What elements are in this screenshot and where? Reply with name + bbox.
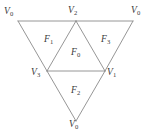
vertex-label-v0-top-left: V0	[4, 7, 13, 17]
face-label-face-f1-subscript: 1	[50, 38, 53, 45]
vertex-label-v2-top-base: V	[68, 5, 74, 15]
edge-v1-to-bottom	[76, 71, 105, 121]
vertex-label-v1-right-base: V	[107, 67, 113, 77]
vertex-label-v0-top-right-subscript: 0	[137, 9, 140, 16]
vertex-label-v3-left-subscript: 3	[37, 71, 40, 78]
edge-v3-to-bottom	[47, 71, 76, 121]
vertex-label-v3-left: V3	[31, 68, 40, 78]
edge-top-right-to-v1	[105, 21, 133, 71]
face-label-face-f0-subscript: 0	[77, 51, 80, 58]
face-label-face-f2: F2	[71, 86, 80, 96]
vertex-label-v1-right-subscript: 1	[113, 71, 116, 78]
vertex-label-v1-right: V1	[107, 68, 116, 78]
vertex-label-v0-top-right-base: V	[131, 5, 137, 15]
face-label-face-f0-base: F	[71, 47, 77, 57]
face-label-face-f3: F3	[101, 35, 110, 45]
vertex-label-v0-bottom: V0	[69, 120, 78, 130]
vertex-label-v0-top-right: V0	[131, 6, 140, 16]
face-label-face-f1: F1	[44, 35, 53, 45]
vertex-label-v0-bottom-subscript: 0	[75, 123, 78, 130]
edge-top-left-to-v3	[18, 21, 47, 71]
tetrahedron-net-figure: V0V2V0V3V1V0F1F0F3F2	[0, 0, 153, 137]
face-label-face-f1-base: F	[44, 34, 50, 44]
vertex-label-v2-top-subscript: 2	[74, 9, 77, 16]
face-label-face-f3-base: F	[101, 34, 107, 44]
vertex-label-v2-top: V2	[68, 6, 77, 16]
net-diagram-svg	[0, 0, 153, 137]
vertex-label-v0-top-left-base: V	[4, 6, 10, 16]
vertex-label-v0-top-left-subscript: 0	[10, 10, 13, 17]
face-label-face-f2-subscript: 2	[77, 89, 80, 96]
vertex-label-v0-bottom-base: V	[69, 119, 75, 129]
edge-v2-to-v3	[47, 21, 76, 71]
face-label-face-f2-base: F	[71, 85, 77, 95]
face-label-face-f3-subscript: 3	[107, 38, 110, 45]
vertex-label-v3-left-base: V	[31, 67, 37, 77]
edge-v2-to-v1	[76, 21, 105, 71]
face-label-face-f0: F0	[71, 48, 80, 58]
